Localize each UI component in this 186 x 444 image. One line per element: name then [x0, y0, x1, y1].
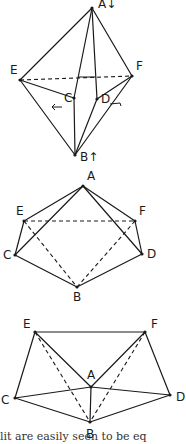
vertex-label-C: C [1, 393, 9, 407]
edge-FD [135, 221, 142, 254]
vertex-label-C: C [3, 248, 11, 262]
vertex-label-B: B↑ [80, 150, 98, 164]
vertex-D [168, 393, 171, 396]
edge-AD [91, 387, 170, 395]
edge-CB [15, 255, 77, 287]
vertex-label-D: D [101, 92, 110, 106]
edge-DB [77, 254, 142, 287]
vertex-label-B: B [73, 290, 81, 304]
edge-FB [75, 76, 132, 155]
vertex-E [33, 330, 36, 333]
edge-CA [15, 387, 91, 398]
vertex-A [89, 385, 92, 388]
vertex-B [88, 420, 91, 423]
edge-DB [90, 395, 170, 422]
dashed-edge-FB [77, 221, 135, 287]
vertex-A [90, 6, 93, 9]
edge-AE [20, 8, 92, 80]
vertex-label-D: D [147, 247, 156, 261]
vertex-label-D: D [176, 390, 185, 404]
arrow-left-icon [52, 104, 62, 110]
dashed-edge-EF [20, 76, 132, 80]
vertex-E [18, 78, 21, 81]
vertex-E [22, 219, 25, 222]
edge-FA [91, 332, 145, 387]
vertex-label-F: F [136, 59, 143, 73]
vertex-label-E: E [16, 204, 24, 218]
vertex-A [81, 184, 84, 187]
vertex-label-F: F [139, 204, 146, 218]
vertex-label-F: F [151, 317, 158, 331]
edge-AC [74, 8, 92, 98]
edge-CB [74, 98, 75, 155]
edge-AB [90, 387, 91, 422]
fig3-figure: EFACDB [1, 317, 185, 441]
dashed-edge-FB [90, 332, 145, 422]
vertex-C [72, 96, 75, 99]
vertex-F [143, 330, 146, 333]
vertex-label-E: E [23, 317, 31, 331]
vertex-label-A: A [87, 169, 96, 183]
fig2-figure: AEFCDB [3, 169, 156, 304]
vertex-label-C: C [64, 91, 72, 105]
dashed-edge-EB [24, 221, 77, 287]
edge-AF [92, 8, 132, 76]
vertex-F [130, 74, 133, 77]
vertex-label-A: A↓ [98, 0, 116, 11]
edge-CB [15, 398, 90, 422]
vertex-B [73, 153, 76, 156]
vertex-B [75, 285, 78, 288]
vertex-D [95, 97, 98, 100]
vertex-C [13, 253, 16, 256]
folding-octahedron-diagram: A↓EFCDB↑AEFCDBEFACDB [0, 0, 186, 444]
vertex-label-A: A [87, 368, 96, 382]
edge-AD [92, 8, 97, 99]
edge-EA [35, 332, 91, 387]
vertex-F [133, 219, 136, 222]
edge-DB [75, 99, 97, 155]
dashed-edge-EB [35, 332, 90, 422]
edge-EC [15, 332, 35, 398]
vertex-label-E: E [10, 63, 18, 77]
vertex-C [13, 396, 16, 399]
edge-FD [145, 332, 170, 395]
vertex-D [140, 252, 143, 255]
fig1-figure: A↓EFCDB↑ [10, 0, 143, 164]
cut-off-caption-text: lit are easily seen to be eq [0, 430, 186, 443]
